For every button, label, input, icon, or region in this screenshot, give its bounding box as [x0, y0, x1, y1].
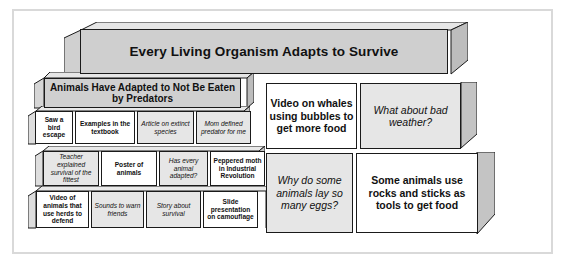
note-box[interactable]: Slide presentation on camouflage: [203, 191, 258, 228]
note-text: Story about survival: [147, 202, 200, 217]
page-title: Every Living Organism Adapts to Survive: [81, 44, 447, 59]
note-text: Peppered moth in Industrial Revolution: [211, 157, 264, 180]
note-face: Poster of animals: [101, 151, 157, 186]
note-box[interactable]: Video of animals that use herds to defen…: [36, 191, 89, 228]
idea-box[interactable]: Some animals use rocks and sticks as too…: [356, 153, 478, 233]
note-face: Teacher explained survival of the fittes…: [43, 151, 99, 186]
idea-face: What about bad weather?: [360, 83, 461, 149]
note-face: Video of animals that use herds to defen…: [36, 191, 89, 228]
idea-text: What about bad weather?: [361, 104, 460, 129]
note-face: Slide presentation on camouflage: [203, 191, 258, 228]
idea-text: Some animals use rocks and sticks as too…: [357, 174, 477, 212]
subtitle-text: Animals Have Adapted to Not Be Eaten by …: [45, 82, 240, 105]
note-face: Peppered moth in Industrial Revolution: [210, 151, 265, 186]
idea-box[interactable]: What about bad weather?: [360, 83, 461, 149]
idea-face: Video on whales using bubbles to get mor…: [266, 83, 357, 149]
idea-text: Why do some animals lay so many eggs?: [267, 174, 352, 212]
idea-box[interactable]: Why do some animals lay so many eggs?: [266, 153, 353, 233]
note-text: Mom defined predator for me: [197, 120, 250, 135]
note-box[interactable]: Has every animal adapted?: [159, 151, 208, 186]
note-text: Examples in the textbook: [76, 120, 134, 135]
note-box[interactable]: Peppered moth in Industrial Revolution: [210, 151, 265, 186]
note-face: Sounds to warn friends: [91, 191, 144, 228]
subtitle-face: Animals Have Adapted to Not Be Eaten by …: [44, 78, 241, 108]
note-text: Has every animal adapted?: [160, 157, 207, 180]
subtitle-block: Animals Have Adapted to Not Be Eaten by …: [44, 78, 241, 108]
note-text: Slide presentation on camouflage: [204, 198, 257, 221]
note-face: Has every animal adapted?: [159, 151, 208, 186]
note-face: Story about survival: [146, 191, 201, 228]
title-block: Every Living Organism Adapts to Survive: [80, 29, 448, 74]
note-box[interactable]: Mom defined predator for me: [196, 111, 251, 144]
note-text: Teacher explained survival of the fittes…: [44, 153, 98, 183]
note-text: Sounds to warn friends: [92, 202, 143, 217]
note-face: Saw a bird escape: [35, 111, 73, 144]
idea-face: Why do some animals lay so many eggs?: [266, 153, 353, 233]
idea-text: Video on whales using bubbles to get mor…: [267, 97, 356, 135]
note-box[interactable]: Teacher explained survival of the fittes…: [43, 151, 99, 186]
note-text: Article on extinct species: [138, 120, 193, 135]
title-face: Every Living Organism Adapts to Survive: [80, 29, 448, 74]
note-text: Poster of animals: [102, 161, 156, 176]
note-face: Article on extinct species: [137, 111, 194, 144]
note-face: Mom defined predator for me: [196, 111, 251, 144]
idea-face: Some animals use rocks and sticks as too…: [356, 153, 478, 233]
note-face: Examples in the textbook: [75, 111, 135, 144]
note-box[interactable]: Saw a bird escape: [35, 111, 73, 144]
note-box[interactable]: Sounds to warn friends: [91, 191, 144, 228]
note-box[interactable]: Poster of animals: [101, 151, 157, 186]
note-text: Saw a bird escape: [36, 116, 72, 139]
note-box[interactable]: Examples in the textbook: [75, 111, 135, 144]
note-box[interactable]: Article on extinct species: [137, 111, 194, 144]
diagram-canvas: Every Living Organism Adapts to Survive …: [0, 0, 565, 263]
note-text: Video of animals that use herds to defen…: [37, 194, 88, 224]
idea-box[interactable]: Video on whales using bubbles to get mor…: [266, 83, 357, 149]
note-box[interactable]: Story about survival: [146, 191, 201, 228]
